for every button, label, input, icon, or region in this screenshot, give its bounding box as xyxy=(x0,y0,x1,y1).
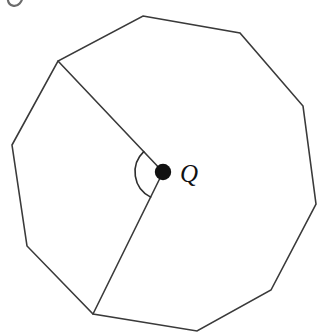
figure-container: Q xyxy=(0,0,326,334)
center-point-label: Q xyxy=(180,160,198,187)
cropped-glyph-fragment xyxy=(8,0,22,6)
center-point-dot xyxy=(155,164,171,180)
central-angle-arc xyxy=(135,152,151,197)
radius-line-upper-left xyxy=(58,61,163,172)
decagon-diagram: Q xyxy=(0,0,326,334)
radius-line-lower-left xyxy=(93,172,163,314)
